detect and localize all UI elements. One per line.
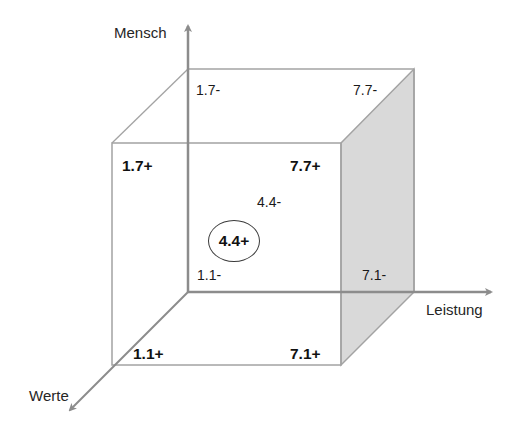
top-left-depth-edge: [112, 69, 188, 143]
label-back-bottom-left: 1.1-: [197, 268, 221, 282]
label-front-top-left: 1.7+: [122, 158, 153, 174]
axis-label-werte: Werte: [29, 388, 69, 403]
axis-label-leistung: Leistung: [426, 302, 483, 317]
highlight-circle: 4.4+: [208, 220, 260, 262]
label-back-center: 4.4-: [257, 195, 281, 209]
label-front-bottom-left: 1.1+: [133, 346, 164, 362]
label-back-top-left: 1.7-: [196, 83, 220, 97]
label-back-bottom-right: 7.1-: [362, 268, 386, 282]
right-face-shaded: [341, 69, 414, 365]
label-back-top-right: 7.7-: [353, 83, 377, 97]
axis-werte: [70, 292, 188, 410]
label-front-top-right: 7.7+: [290, 158, 321, 174]
cube-diagram: [0, 0, 519, 438]
label-highlighted: 4.4+: [219, 233, 250, 249]
label-front-bottom-right: 7.1+: [290, 346, 321, 362]
axis-label-mensch: Mensch: [114, 25, 167, 40]
